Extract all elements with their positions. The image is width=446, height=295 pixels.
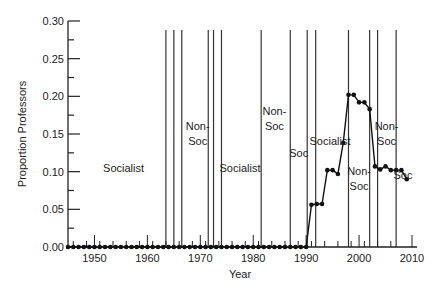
y-tick-label: 0.15 [43,128,64,140]
data-point [172,245,177,250]
data-point [288,245,293,250]
data-point [267,245,272,250]
data-point [203,245,208,250]
data-point [314,202,319,207]
x-tick-label: 2000 [347,252,371,264]
y-tick-label: 0.05 [43,203,64,215]
data-point [224,245,229,250]
data-point [357,100,362,105]
data-point [161,245,166,250]
data-point [373,164,378,169]
data-point [124,245,129,250]
data-point [145,245,150,250]
data-point [304,245,309,250]
data-point [246,245,251,250]
data-point [293,245,298,250]
data-point [156,245,161,250]
data-point [97,245,102,250]
data-point [209,245,214,250]
data-point [299,245,304,250]
data-point [262,245,267,250]
data-point [277,245,282,250]
line-chart: 0.000.050.100.150.200.250.30195019601970… [0,0,446,295]
y-tick-label: 0.00 [43,241,64,253]
x-tick-label: 1950 [82,252,106,264]
data-point [230,245,235,250]
data-point [166,245,171,250]
data-point [108,245,113,250]
data-point [283,245,288,250]
annotation-label: Socialist [103,162,144,174]
data-point [140,245,145,250]
data-point [182,245,187,250]
y-axis-title: Proportion Professors [16,80,28,187]
x-axis-title: Year [229,268,252,280]
annotation-label: Socialist [220,162,261,174]
data-point [92,245,97,250]
data-point [240,245,245,250]
data-point [272,245,277,250]
axes: 0.000.050.100.150.200.250.30195019601970… [43,15,425,264]
data-point [129,245,134,250]
annotation-label: Non- [375,120,399,132]
data-point [362,100,367,105]
data-point [336,172,341,177]
annotation-label: Non- [186,120,210,132]
data-point [378,167,383,172]
data-point [389,168,394,173]
data-point [135,245,140,250]
data-point [309,203,314,208]
annotation-label: Soc [265,120,284,132]
annotation-label: Socialist [309,135,350,147]
data-point [177,245,182,250]
data-point [346,93,351,98]
y-tick-label: 0.20 [43,90,64,102]
data-point [82,245,87,250]
x-tick-label: 2010 [400,252,424,264]
annotation-label: Soc [350,180,369,192]
data-point [383,164,388,169]
data-point [193,245,198,250]
annotation-label: Non- [347,165,371,177]
x-tick-label: 1970 [188,252,212,264]
data-point [87,245,92,250]
annotation-label: Soc [394,169,413,181]
data-point [113,245,118,250]
data-point [119,245,124,250]
data-point [71,245,76,250]
data-point [351,93,356,98]
y-tick-label: 0.25 [43,53,64,65]
data-point [150,245,155,250]
y-tick-label: 0.30 [43,15,64,27]
data-point [235,245,240,250]
data-point [325,168,330,173]
data-point [76,245,81,250]
annotation-label: Non- [262,105,286,117]
data-point [214,245,219,250]
data-point [251,245,256,250]
x-tick-label: 1990 [294,252,318,264]
data-point [103,245,108,250]
x-tick-label: 1980 [241,252,265,264]
data-point [187,245,192,250]
data-point [330,168,335,173]
data-point [219,245,224,250]
data-point [66,245,71,250]
data-point [256,245,261,250]
data-point [367,107,372,112]
data-point [198,245,203,250]
annotation-label: Soc [188,135,207,147]
data-point [320,202,325,207]
annotation-label: Soc [289,147,308,159]
annotation-label: Soc [377,135,396,147]
annotations: SocialistNon-SocSocialistNon-SocSocSocia… [103,105,413,192]
x-tick-label: 1960 [135,252,159,264]
y-tick-label: 0.10 [43,166,64,178]
